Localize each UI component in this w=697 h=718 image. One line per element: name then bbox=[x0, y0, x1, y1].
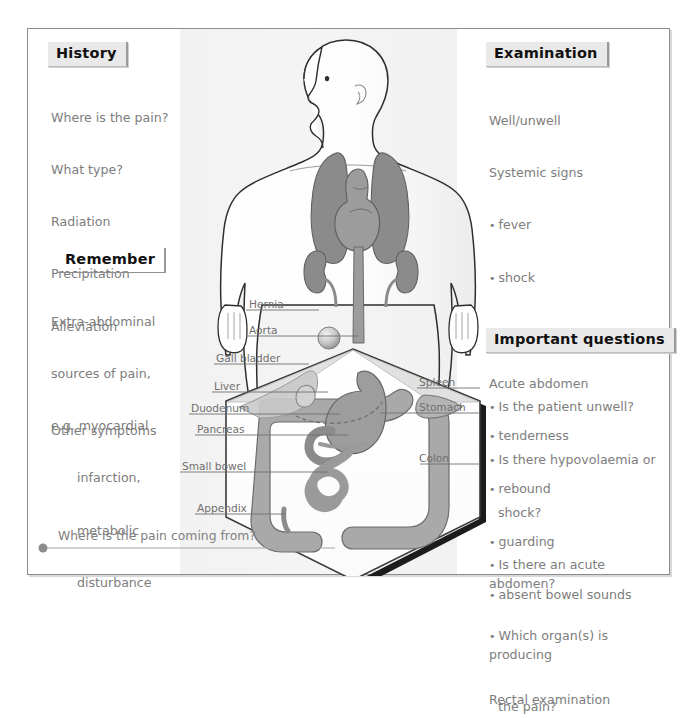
remember-line-3: infarction, bbox=[51, 469, 196, 486]
question-2: Is there an acute abdomen? bbox=[489, 556, 669, 592]
remember-line-0: Extra-abdominal bbox=[51, 313, 196, 330]
label-appendix: Appendix bbox=[197, 502, 247, 514]
remember-line-2: e.g. myocardial bbox=[51, 417, 196, 434]
figure-caption: Where is the pain coming from? bbox=[58, 528, 256, 543]
panel-header-remember: Remember bbox=[57, 248, 166, 273]
exam-line-1: Systemic signs bbox=[489, 164, 664, 181]
history-line-0: Where is the pain? bbox=[51, 109, 191, 126]
label-hernia: Hernia bbox=[249, 298, 284, 310]
panel-body-remember: Extra-abdominal sources of pain, e.g. my… bbox=[51, 278, 196, 626]
question-0: Is the patient unwell? bbox=[489, 398, 669, 416]
label-liver: Liver bbox=[214, 380, 240, 392]
exam-line-3: shock bbox=[489, 269, 664, 287]
label-duodenum: Duodenum bbox=[191, 402, 249, 414]
label-colon: Colon bbox=[419, 452, 449, 464]
question-3-cont: the pain? bbox=[489, 698, 669, 715]
label-small-bowel: Small bowel bbox=[182, 460, 246, 472]
panel-body-important-questions: Is the patient unwell? Is there hypovola… bbox=[489, 363, 669, 718]
panel-header-important-questions: Important questions bbox=[486, 328, 676, 353]
question-3: Which organ(s) is producing bbox=[489, 627, 669, 663]
panel-header-history: History bbox=[48, 42, 128, 67]
label-spleen: Spleen bbox=[419, 376, 455, 388]
question-1: Is there hypovolaemia or bbox=[489, 451, 669, 469]
question-1-cont: shock? bbox=[489, 504, 669, 521]
history-line-1: What type? bbox=[51, 161, 191, 178]
label-gall-bladder: Gall bladder bbox=[216, 352, 280, 364]
exam-line-2: fever bbox=[489, 216, 664, 234]
label-stomach: Stomach bbox=[419, 401, 466, 413]
history-line-2: Radiation bbox=[51, 213, 191, 230]
exam-line-0: Well/unwell bbox=[489, 112, 664, 129]
background-band bbox=[180, 29, 457, 574]
remember-line-5: disturbance bbox=[51, 574, 196, 591]
panel-header-examination: Examination bbox=[486, 42, 609, 67]
label-pancreas: Pancreas bbox=[197, 423, 245, 435]
figure-frame: History Where is the pain? What type? Ra… bbox=[27, 28, 670, 575]
remember-line-1: sources of pain, bbox=[51, 365, 196, 382]
label-aorta: Aorta bbox=[249, 324, 278, 336]
